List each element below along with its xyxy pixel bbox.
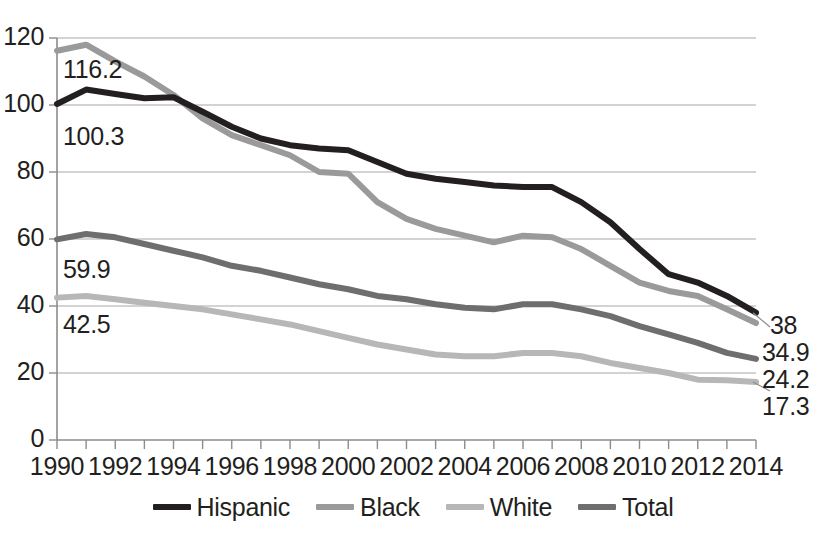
end-value-label-white: 17.3	[762, 392, 809, 421]
legend-swatch-icon-hispanic	[153, 504, 191, 510]
legend-label-total: Total	[622, 495, 673, 520]
series-line-hispanic	[57, 90, 756, 313]
series-line-black	[57, 45, 756, 323]
legend-item-hispanic[interactable]: Hispanic	[153, 495, 290, 520]
legend-label-black: Black	[360, 495, 420, 520]
y-axis-tick-label-120: 120	[0, 22, 44, 51]
start-value-label-total: 59.9	[63, 255, 110, 284]
legend-label-white: White	[490, 495, 552, 520]
legend-swatch-icon-black	[316, 504, 354, 510]
end-value-label-black: 34.9	[762, 338, 809, 367]
y-axis-tick-label-60: 60	[0, 223, 44, 252]
legend-label-hispanic: Hispanic	[197, 495, 290, 520]
legend-swatch-icon-white	[446, 504, 484, 510]
y-axis-tick-label-0: 0	[0, 424, 44, 453]
chart-legend: HispanicBlackWhiteTotal	[0, 487, 826, 527]
y-axis-tick-label-100: 100	[0, 89, 44, 118]
series-line-total	[57, 234, 756, 359]
y-axis-tick-label-20: 20	[0, 357, 44, 386]
start-value-label-white: 42.5	[63, 310, 110, 339]
y-axis-tick-label-40: 40	[0, 290, 44, 319]
end-value-label-hispanic: 38	[770, 311, 797, 340]
start-value-label-black: 116.2	[63, 55, 122, 84]
start-value-label-hispanic: 100.3	[63, 122, 124, 151]
legend-item-black[interactable]: Black	[316, 495, 420, 520]
legend-swatch-icon-total	[578, 504, 616, 510]
y-axis-tick-label-80: 80	[0, 156, 44, 185]
x-axis-tick-label-2014: 2014	[716, 452, 796, 481]
series-line-white	[57, 296, 756, 382]
legend-item-total[interactable]: Total	[578, 495, 673, 520]
line-chart: 120100806040200 199019921994199619982000…	[0, 0, 826, 537]
legend-item-white[interactable]: White	[446, 495, 552, 520]
end-value-label-total: 24.2	[762, 365, 809, 394]
